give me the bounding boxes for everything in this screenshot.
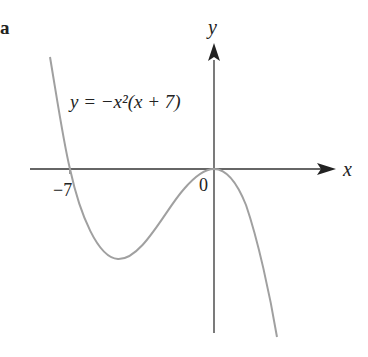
origin-label: 0 — [199, 175, 208, 195]
x-axis-label: x — [342, 158, 352, 180]
equation-text: y = −x²(x + 7) — [68, 91, 181, 113]
y-axis-arrow-icon — [208, 43, 220, 61]
equation-label: y = −x²(x + 7) — [68, 91, 181, 113]
y-axis-label: y — [206, 16, 217, 39]
cubic-graph: a x y −7 0 y = −x²(x + 7) — [0, 0, 368, 357]
panel-label: a — [0, 17, 10, 38]
x-tick-label-minus7: −7 — [53, 180, 72, 200]
